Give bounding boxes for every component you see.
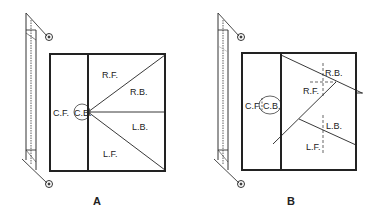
caption-b: B [287, 195, 295, 207]
label-right-back: R.B. [325, 68, 343, 78]
figure-b: R.B. R.F. C.F. C.B. L.B. L.F. B [214, 13, 363, 207]
label-right-front: R.F. [303, 86, 319, 96]
figure-b-side-strip [214, 13, 245, 188]
label-right-back: R.B. [130, 87, 148, 97]
label-left-back: L.B. [326, 121, 342, 131]
caption-a: A [93, 195, 101, 207]
label-center-back: C.B. [74, 108, 92, 118]
label-left-front: L.F. [103, 149, 118, 159]
figure-a: R.F. R.B. C.F. C.B. L.B. L.F. A [22, 13, 165, 207]
diagram-canvas: R.F. R.B. C.F. C.B. L.B. L.F. A [0, 0, 381, 216]
label-center-back: C.B. [263, 101, 281, 111]
label-center-front: C.F. [245, 101, 261, 111]
figure-b-stage-plan [242, 53, 363, 170]
figure-a-side-strip [22, 13, 53, 188]
label-left-back: L.B. [132, 122, 148, 132]
label-left-front: L.F. [306, 142, 321, 152]
label-right-front: R.F. [102, 70, 118, 80]
label-center-front: C.F. [53, 108, 69, 118]
